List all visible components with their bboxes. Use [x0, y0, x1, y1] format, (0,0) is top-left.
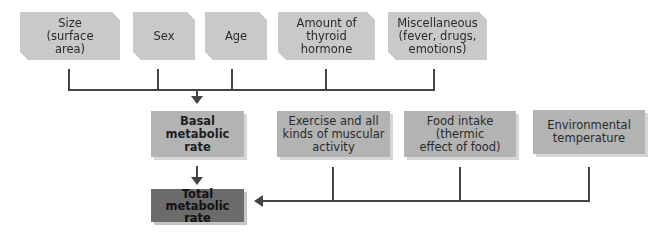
basal-metabolic-rate-box: Basal metabolic rate [151, 111, 244, 157]
connector-exercise-stem [332, 167, 334, 202]
factor-thyroid-box: Amount of thyroid hormone [278, 12, 375, 60]
factor-misc-box: Miscellaneous (fever, drugs, emotions) [388, 12, 487, 60]
connector-sex-stem [157, 69, 159, 91]
connector-thyroid-stem [325, 69, 327, 91]
arrow-down-icon [191, 96, 203, 104]
factor-size-box: Size (surface area) [20, 12, 120, 60]
factor-exercise-box: Exercise and all kinds of muscular activ… [277, 111, 390, 157]
arrow-left-icon [254, 195, 263, 207]
connector-food-stem [459, 167, 461, 202]
connector-misc-stem [433, 69, 435, 91]
factor-sex-box: Sex [133, 12, 195, 60]
connector-age-stem [231, 69, 233, 91]
connector-environment-stem [588, 167, 590, 202]
factor-environment-box: Environmental temperature [533, 110, 645, 154]
factor-age-box: Age [205, 12, 267, 60]
connector-bottom-bar [262, 200, 590, 202]
arrow-down-icon [191, 177, 203, 185]
factor-food-box: Food intake (thermic effect of food) [404, 111, 516, 157]
connector-top-bar [68, 89, 435, 91]
connector-size-stem [68, 69, 70, 91]
total-metabolic-rate-box: Total metabolic rate [151, 189, 244, 222]
